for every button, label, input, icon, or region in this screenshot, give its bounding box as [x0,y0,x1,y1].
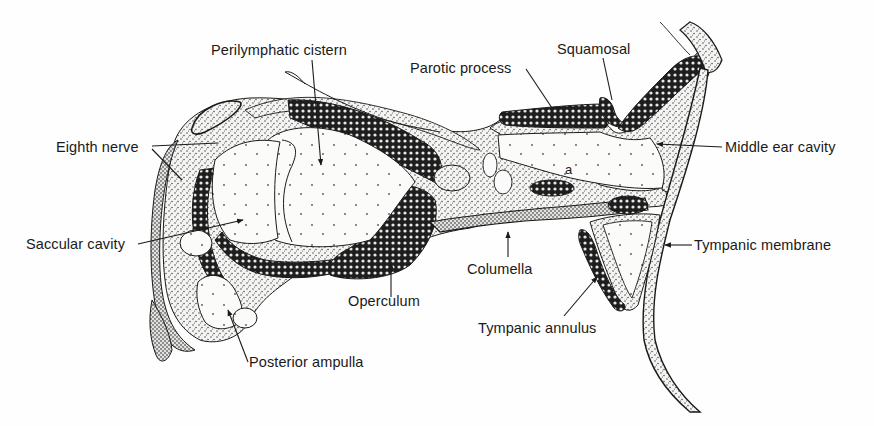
saccular-cavity [212,140,280,243]
structure-a-cartilage [530,180,574,196]
leader-squamosal [603,58,612,100]
label-columella: Columella [467,262,532,277]
lagena-oval [180,230,212,256]
label-tympanic-annulus: Tympanic annulus [478,321,596,336]
leader-parotic-process [526,69,552,108]
label-a: a [565,163,572,176]
label-eighth-nerve: Eighth nerve [56,140,139,155]
label-posterior-ampulla: Posterior ampulla [249,355,364,370]
diagram-figure: Perilymphatic cistern Parotic process Sq… [0,0,874,426]
label-perilymphatic-cistern: Perilymphatic cistern [211,43,347,58]
label-squamosal: Squamosal [557,42,630,57]
label-operculum: Operculum [348,294,420,309]
sensory-oval [434,165,470,191]
extracolumella-cartilage [608,196,648,214]
label-parotic-process: Parotic process [410,61,511,76]
label-saccular-cavity: Saccular cavity [26,237,125,252]
parotic-process-cartilage [499,104,610,128]
label-tympanic-membrane: Tympanic membrane [694,238,831,253]
label-middle-ear-cavity: Middle ear cavity [725,140,836,155]
leader-tympanic-annulus [564,277,597,316]
